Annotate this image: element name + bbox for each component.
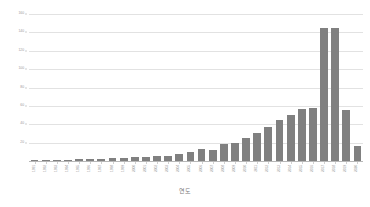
x-axis-tick-label: 2007 bbox=[211, 165, 214, 172]
x-axis-tick-label: 1992 bbox=[44, 165, 47, 172]
x-axis-tick-label: 2000 bbox=[133, 165, 136, 172]
bar bbox=[320, 28, 328, 161]
x-axis-tick-mark bbox=[268, 162, 269, 164]
x-axis-tick-mark bbox=[302, 162, 303, 164]
x-axis-tick-mark bbox=[257, 162, 258, 164]
x-axis-tick-label: 1995 bbox=[77, 165, 80, 172]
x-axis-tick-mark bbox=[35, 162, 36, 164]
bar bbox=[97, 159, 105, 161]
x-axis-tick-label: 2012 bbox=[266, 165, 269, 172]
x-axis-tick-label: 2019 bbox=[344, 165, 347, 172]
bar bbox=[75, 159, 83, 161]
bar bbox=[276, 120, 284, 161]
bar bbox=[131, 157, 139, 161]
bar bbox=[253, 133, 261, 161]
x-axis-tick-mark bbox=[101, 162, 102, 164]
x-axis-tick-label: 2011 bbox=[255, 165, 258, 172]
bar bbox=[309, 108, 317, 161]
x-axis-tick-label: 2001 bbox=[144, 165, 147, 172]
x-axis-tick-mark bbox=[124, 162, 125, 164]
y-axis: 16014012010080604020 bbox=[0, 14, 27, 161]
x-axis-tick-mark bbox=[246, 162, 247, 164]
x-axis-tick-mark bbox=[68, 162, 69, 164]
x-axis-tick-mark bbox=[202, 162, 203, 164]
bar bbox=[287, 115, 295, 161]
y-axis-tick-label: 140 bbox=[18, 31, 24, 34]
x-axis-tick-label: 1998 bbox=[111, 165, 114, 172]
x-axis-tick-label: 2017 bbox=[322, 165, 325, 172]
x-axis-tick-label: 1991 bbox=[33, 165, 36, 172]
bar bbox=[264, 127, 272, 161]
x-axis-tick-label: 2016 bbox=[311, 165, 314, 172]
bar bbox=[242, 138, 250, 161]
y-axis-tick-label: 40 bbox=[20, 123, 24, 126]
bar bbox=[198, 149, 206, 161]
x-axis-tick-mark bbox=[79, 162, 80, 164]
x-axis-tick-label: 2013 bbox=[278, 165, 281, 172]
bar bbox=[120, 158, 128, 161]
x-axis-tick-mark bbox=[157, 162, 158, 164]
bar bbox=[64, 160, 72, 161]
x-axis-tick-mark bbox=[213, 162, 214, 164]
y-axis-tick-label: 60 bbox=[20, 104, 24, 107]
x-axis-tick-mark bbox=[235, 162, 236, 164]
bar bbox=[175, 154, 183, 161]
x-axis-tick-label: 2002 bbox=[155, 165, 158, 172]
x-axis-tick-label: 1993 bbox=[55, 165, 58, 172]
x-axis-tick-label: 2018 bbox=[333, 165, 336, 172]
x-axis-tick-mark bbox=[146, 162, 147, 164]
x-axis: 1991199219931994199519961997199819992000… bbox=[29, 162, 363, 186]
bar bbox=[209, 150, 217, 161]
x-axis-tick-mark bbox=[179, 162, 180, 164]
x-axis-tick-label: 2020 bbox=[355, 165, 358, 172]
x-axis-tick-mark bbox=[57, 162, 58, 164]
y-axis-tick-mark bbox=[25, 142, 27, 143]
x-axis-tick-mark bbox=[313, 162, 314, 164]
bar bbox=[220, 144, 228, 161]
bar bbox=[331, 28, 339, 161]
x-axis-tick-label: 2014 bbox=[289, 165, 292, 172]
x-axis-tick-mark bbox=[324, 162, 325, 164]
x-axis-tick-mark bbox=[357, 162, 358, 164]
x-axis-tick-mark bbox=[190, 162, 191, 164]
bar bbox=[354, 146, 362, 161]
y-axis-tick-label: 120 bbox=[18, 49, 24, 52]
x-axis-tick-label: 2008 bbox=[222, 165, 225, 172]
y-axis-tick-mark bbox=[25, 32, 27, 33]
bar bbox=[53, 160, 61, 161]
y-axis-tick-mark bbox=[25, 105, 27, 106]
bar bbox=[231, 143, 239, 161]
y-axis-tick-mark bbox=[25, 69, 27, 70]
bar bbox=[86, 159, 94, 161]
bar bbox=[109, 158, 117, 161]
x-axis-tick-mark bbox=[135, 162, 136, 164]
bar bbox=[298, 109, 306, 161]
y-axis-tick-mark bbox=[25, 50, 27, 51]
bar bbox=[153, 156, 161, 162]
bar-chart: 16014012010080604020 1991199219931994199… bbox=[0, 0, 370, 207]
x-axis-tick-mark bbox=[280, 162, 281, 164]
y-axis-tick-mark bbox=[25, 14, 27, 15]
y-axis-tick-label: 80 bbox=[20, 86, 24, 89]
bar bbox=[187, 152, 195, 161]
x-axis-tick-label: 1999 bbox=[122, 165, 125, 172]
bars-layer bbox=[29, 14, 363, 161]
x-axis-tick-label: 2015 bbox=[300, 165, 303, 172]
x-axis-tick-label: 2009 bbox=[233, 165, 236, 172]
y-axis-tick-label: 100 bbox=[18, 67, 24, 70]
x-axis-tick-label: 2010 bbox=[244, 165, 247, 172]
x-axis-tick-label: 1994 bbox=[66, 165, 69, 172]
y-axis-tick-mark bbox=[25, 124, 27, 125]
bar bbox=[342, 110, 350, 161]
x-axis-tick-label: 2006 bbox=[200, 165, 203, 172]
bar bbox=[142, 157, 150, 161]
x-axis-tick-mark bbox=[224, 162, 225, 164]
bar bbox=[164, 156, 172, 162]
bar bbox=[42, 160, 50, 161]
x-axis-tick-mark bbox=[168, 162, 169, 164]
x-axis-title: 연도 bbox=[0, 188, 370, 195]
x-axis-tick-mark bbox=[90, 162, 91, 164]
y-axis-tick-label: 20 bbox=[20, 141, 24, 144]
x-axis-tick-label: 2005 bbox=[188, 165, 191, 172]
x-axis-tick-label: 2004 bbox=[177, 165, 180, 172]
